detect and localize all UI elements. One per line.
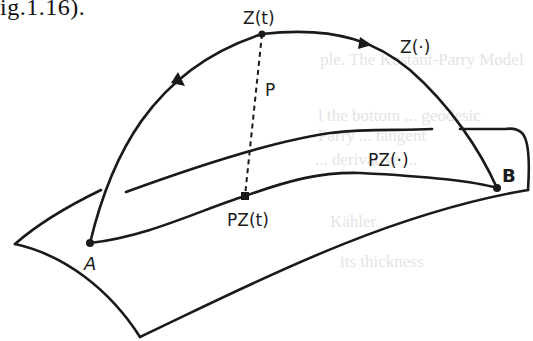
- surface-left-lower-edge: [15, 244, 140, 337]
- label-b: B: [502, 165, 516, 186]
- arrow-head-right: [358, 37, 372, 49]
- label-z-dot: Z(·): [400, 37, 430, 57]
- point-b: [493, 184, 501, 192]
- label-pz-dot: PZ(·): [368, 150, 409, 170]
- surface-left-upper-edge: [15, 190, 101, 244]
- geodesic-projection-diagram: Z(t) Z(·) P PZ(·) PZ(t) A B: [0, 0, 533, 341]
- point-pz-t: [241, 192, 249, 200]
- label-pz-t: PZ(t): [227, 210, 269, 230]
- point-a: [86, 239, 94, 247]
- projection-line-p: [245, 34, 262, 196]
- point-z-t: [259, 31, 266, 38]
- label-z-t: Z(t): [243, 8, 275, 28]
- label-a: A: [83, 253, 96, 274]
- label-p: P: [265, 80, 275, 100]
